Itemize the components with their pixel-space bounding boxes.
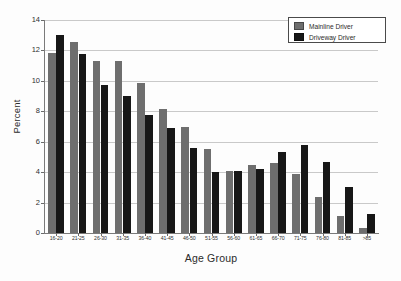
bar-driveway <box>79 54 87 233</box>
legend-swatch-mainline-icon <box>294 22 304 30</box>
y-axis-title-text: Percent <box>11 99 22 133</box>
x-tick-label: 66-70 <box>267 235 289 241</box>
x-tick-label: 61-65 <box>245 235 267 241</box>
x-tick-label: 21-25 <box>67 235 89 241</box>
bar-mainline <box>93 61 101 233</box>
bar-driveway <box>167 128 175 233</box>
y-tick-label: 12 <box>24 46 40 54</box>
x-tick-label: 41-45 <box>156 235 178 241</box>
legend-label-mainline: Mainline Driver <box>309 23 353 30</box>
bar-driveway <box>123 96 131 233</box>
bar-mainline <box>159 109 167 233</box>
y-tick-mark <box>41 142 44 143</box>
x-tick-label: 36-40 <box>134 235 156 241</box>
bar-driveway <box>234 171 242 233</box>
bar-mainline <box>70 42 78 233</box>
legend-item-driveway: Driveway Driver <box>292 32 382 42</box>
x-tick-label: 81-85 <box>334 235 356 241</box>
y-tick-mark <box>41 20 44 21</box>
bar-mainline <box>248 165 256 233</box>
y-tick-label: 14 <box>24 16 40 24</box>
x-axis-title: Age Group <box>44 252 378 264</box>
x-tick-label: 46-50 <box>178 235 200 241</box>
bar-mainline <box>337 216 345 233</box>
legend-label-driveway: Driveway Driver <box>309 34 356 41</box>
y-tick-mark <box>41 81 44 82</box>
chart-legend: Mainline Driver Driveway Driver <box>288 17 386 43</box>
bar-driveway <box>101 85 109 233</box>
bar-chart-figure: Percent 02468101214 16-2021-2526-3031-35… <box>0 0 401 281</box>
x-tick-label: 31-35 <box>112 235 134 241</box>
bar-mainline <box>137 83 145 233</box>
bar-mainline <box>359 228 367 233</box>
x-tick-label: 76-80 <box>311 235 333 241</box>
y-tick-label: 10 <box>24 77 40 85</box>
legend-item-mainline: Mainline Driver <box>292 21 382 31</box>
y-tick-mark <box>41 111 44 112</box>
bar-driveway <box>301 145 309 233</box>
x-axis-title-text: Age Group <box>185 252 238 264</box>
bar-mainline <box>292 174 300 233</box>
bar-mainline <box>226 171 234 233</box>
y-tick-mark <box>41 50 44 51</box>
y-tick-label: 8 <box>24 107 40 115</box>
y-tick-label: 4 <box>24 168 40 176</box>
bar-driveway <box>212 172 220 233</box>
bar-driveway <box>145 115 153 233</box>
x-tick-label: 51-55 <box>200 235 222 241</box>
bar-driveway <box>345 187 353 233</box>
bar-mainline <box>115 61 123 233</box>
y-tick-mark <box>41 172 44 173</box>
y-tick-label: 0 <box>24 229 40 237</box>
bar-driveway <box>56 35 64 233</box>
bar-mainline <box>204 149 212 233</box>
x-tick-label: >85 <box>356 235 378 241</box>
bar-mainline <box>48 53 56 233</box>
y-tick-mark <box>41 233 44 234</box>
bar-mainline <box>315 197 323 234</box>
y-tick-mark <box>41 203 44 204</box>
bars-layer <box>45 20 378 233</box>
y-tick-label: 2 <box>24 199 40 207</box>
x-tick-label: 26-30 <box>89 235 111 241</box>
y-tick-label: 6 <box>24 138 40 146</box>
bar-driveway <box>278 152 286 233</box>
x-tick-label: 56-60 <box>223 235 245 241</box>
bar-driveway <box>323 162 331 233</box>
bar-driveway <box>190 148 198 233</box>
bar-mainline <box>181 127 189 234</box>
legend-swatch-driveway-icon <box>294 33 304 41</box>
x-tick-label: 71-75 <box>289 235 311 241</box>
bar-driveway <box>256 169 264 233</box>
x-tick-labels: 16-2021-2526-3031-3536-4041-4546-5051-55… <box>45 235 378 247</box>
bar-mainline <box>270 163 278 233</box>
y-axis-title: Percent <box>7 0 25 233</box>
x-tick-label: 16-20 <box>45 235 67 241</box>
bar-driveway <box>367 214 375 233</box>
